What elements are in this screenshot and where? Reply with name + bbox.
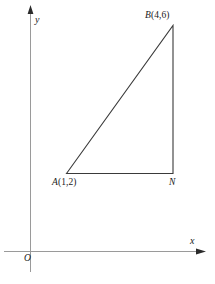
point-b-coords: (4,6) — [151, 10, 170, 20]
y-axis-label: y — [35, 15, 39, 25]
x-axis-label: x — [190, 236, 194, 246]
figure-canvas — [0, 0, 215, 284]
triangle-abn — [67, 26, 174, 174]
y-axis-arrowhead-icon — [28, 5, 34, 14]
point-n-name: N — [169, 177, 175, 187]
point-b-label: B(4,6) — [145, 11, 170, 21]
point-n-label: N — [169, 178, 175, 188]
coordinate-figure: B(4,6) A(1,2) N y x O — [0, 0, 215, 284]
point-a-coords: (1,2) — [58, 177, 77, 187]
origin-label: O — [24, 254, 31, 264]
x-axis-arrowhead-icon — [196, 248, 206, 254]
point-a-label: A(1,2) — [52, 178, 77, 188]
